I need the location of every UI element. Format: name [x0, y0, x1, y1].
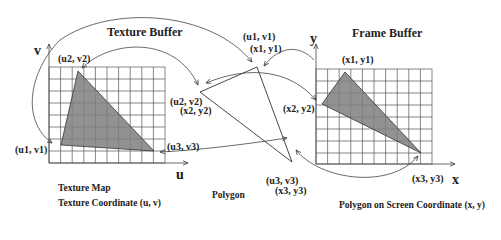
frame-vertex3-label: (x3, y3): [412, 174, 444, 184]
texture-vertex3-label: (u3, v3): [167, 142, 199, 152]
v-axis-label: v: [34, 44, 41, 58]
frame-vertex2-label: (x2, y2): [283, 104, 315, 114]
polygon-vertex1-tex-label: (u1, v1): [243, 32, 275, 42]
polygon-vertex3-scr-label: (x3, y3): [275, 186, 307, 196]
x-axis-label: x: [452, 173, 459, 187]
frame-vertex1-label: (x1, y1): [342, 55, 374, 65]
polygon-caption: Polygon: [212, 191, 245, 201]
texture-buffer-title: Texture Buffer: [107, 26, 183, 38]
frame-buffer-title: Frame Buffer: [352, 27, 422, 39]
texture-vertex1-label: (u1, v1): [15, 145, 47, 155]
y-axis-label: y: [310, 32, 317, 46]
u-axis-label: u: [176, 168, 184, 182]
polygon-vertex2-scr-label: (x2, y2): [180, 106, 212, 116]
texture-vertex2-label: (u2, v2): [58, 54, 90, 64]
screen-coordinate-caption: Polygon on Screen Coordinate (x, y): [339, 201, 485, 211]
texture-map-caption: Texture Map: [58, 184, 111, 194]
polygon-vertex1-scr-label: (x1, y1): [250, 44, 282, 54]
texture-coordinate-caption: Texture Coordinate (u, v): [58, 199, 161, 209]
texture-triangle: [61, 71, 154, 151]
